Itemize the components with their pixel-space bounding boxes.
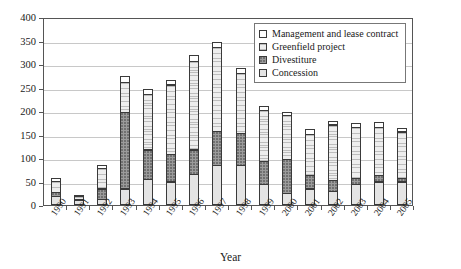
x-tick-mark bbox=[390, 206, 391, 210]
x-tick-mark bbox=[136, 206, 137, 210]
bar-segment-greenfield[interactable] bbox=[143, 94, 153, 150]
bar-group[interactable] bbox=[328, 122, 338, 205]
bar-segment-greenfield[interactable] bbox=[212, 47, 222, 132]
legend-item[interactable]: Concession bbox=[259, 66, 401, 79]
x-tick-mark bbox=[321, 206, 322, 210]
x-tick-mark bbox=[66, 206, 67, 210]
legend-label: Greenfield project bbox=[272, 42, 345, 52]
bar-group[interactable] bbox=[374, 123, 384, 205]
bar-segment-greenfield[interactable] bbox=[351, 127, 361, 179]
bar-segment-greenfield[interactable] bbox=[282, 115, 292, 160]
bar-group[interactable] bbox=[212, 43, 222, 205]
bar-segment-divestiture[interactable] bbox=[305, 175, 315, 189]
x-tick-mark bbox=[182, 206, 183, 210]
stacked-bar-chart: 050100150200250300350400 Year 1990199119… bbox=[0, 0, 461, 269]
bar-segment-divestiture[interactable] bbox=[282, 159, 292, 194]
legend-swatch-icon bbox=[259, 56, 267, 64]
bar-group[interactable] bbox=[120, 77, 130, 205]
x-tick-mark bbox=[344, 206, 345, 210]
x-tick-mark bbox=[274, 206, 275, 210]
legend-swatch-icon bbox=[259, 69, 267, 77]
x-tick-mark bbox=[367, 206, 368, 210]
legend-label: Management and lease contract bbox=[272, 29, 398, 39]
x-axis: Year 19901991199219931994199519961997199… bbox=[0, 206, 461, 269]
bar-group[interactable] bbox=[282, 113, 292, 205]
bar-segment-greenfield[interactable] bbox=[374, 127, 384, 176]
bar-segment-divestiture[interactable] bbox=[143, 150, 153, 181]
y-tick-label: 350 bbox=[20, 37, 36, 47]
x-axis-title: Year bbox=[0, 251, 461, 263]
legend-item[interactable]: Greenfield project bbox=[259, 40, 401, 53]
bar-segment-divestiture[interactable] bbox=[166, 154, 176, 182]
bar-segment-greenfield[interactable] bbox=[97, 168, 107, 189]
bar-segment-greenfield[interactable] bbox=[259, 110, 269, 162]
y-tick-label: 300 bbox=[20, 60, 36, 70]
legend-swatch-icon bbox=[259, 30, 267, 38]
x-tick-mark bbox=[112, 206, 113, 210]
legend-item[interactable]: Management and lease contract bbox=[259, 27, 401, 40]
bar-segment-divestiture[interactable] bbox=[259, 161, 269, 185]
bar-group[interactable] bbox=[166, 81, 176, 205]
x-tick-mark bbox=[297, 206, 298, 210]
x-tick-mark bbox=[413, 206, 414, 210]
bar-segment-greenfield[interactable] bbox=[189, 61, 199, 150]
bar-segment-greenfield[interactable] bbox=[305, 134, 315, 176]
bar-group[interactable] bbox=[189, 56, 199, 205]
bar-segment-divestiture[interactable] bbox=[120, 112, 130, 190]
y-tick-label: 400 bbox=[20, 13, 36, 23]
x-tick-mark bbox=[228, 206, 229, 210]
x-tick-mark bbox=[251, 206, 252, 210]
bar-segment-greenfield[interactable] bbox=[120, 82, 130, 113]
y-tick-label: 250 bbox=[20, 84, 36, 94]
x-tick-mark bbox=[89, 206, 90, 210]
y-tick-label: 200 bbox=[20, 107, 36, 117]
y-tick-label: 50 bbox=[26, 178, 37, 188]
legend-item[interactable]: Divestiture bbox=[259, 53, 401, 66]
y-tick-label: 150 bbox=[20, 131, 36, 141]
legend-label: Divestiture bbox=[272, 55, 316, 65]
bar-segment-divestiture[interactable] bbox=[212, 131, 222, 166]
bar-group[interactable] bbox=[259, 107, 269, 205]
y-axis: 050100150200250300350400 bbox=[0, 0, 43, 210]
bar-group[interactable] bbox=[143, 90, 153, 205]
x-tick-mark bbox=[205, 206, 206, 210]
bar-group[interactable] bbox=[236, 69, 246, 205]
bar-group[interactable] bbox=[397, 129, 407, 205]
legend-label: Concession bbox=[272, 68, 318, 78]
bar-segment-greenfield[interactable] bbox=[328, 125, 338, 181]
y-tick-label: 100 bbox=[20, 154, 36, 164]
bar-group[interactable] bbox=[305, 130, 315, 205]
bar-group[interactable] bbox=[351, 124, 361, 205]
legend-swatch-icon bbox=[259, 43, 267, 51]
bar-segment-greenfield[interactable] bbox=[236, 73, 246, 134]
bar-segment-greenfield[interactable] bbox=[397, 132, 407, 179]
bar-segment-greenfield[interactable] bbox=[166, 85, 176, 156]
bar-segment-divestiture[interactable] bbox=[236, 133, 246, 166]
bar-segment-divestiture[interactable] bbox=[189, 150, 199, 176]
x-tick-mark bbox=[159, 206, 160, 210]
chart-legend: Management and lease contractGreenfield … bbox=[254, 23, 406, 83]
